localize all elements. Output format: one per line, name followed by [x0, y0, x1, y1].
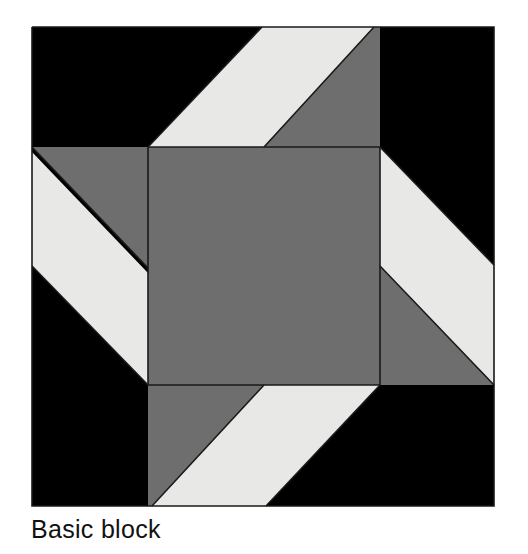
basic-block-diagram — [0, 0, 528, 554]
figure-caption: Basic block — [31, 512, 491, 546]
block-shape-layer — [32, 27, 494, 506]
quilt-block-figure: Basic block — [0, 0, 528, 554]
center-square — [148, 147, 380, 385]
